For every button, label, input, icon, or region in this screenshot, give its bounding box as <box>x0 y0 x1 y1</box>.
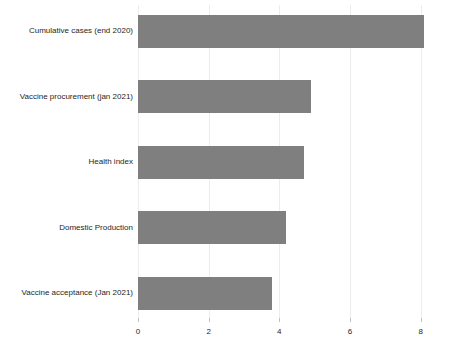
x-tick-label-2: 2 <box>199 327 219 336</box>
gridline-x-8 <box>421 5 422 318</box>
x-tick-mark-2 <box>209 318 210 322</box>
bar-4 <box>138 277 272 310</box>
category-label-2: Health index <box>0 156 133 168</box>
x-tick-label-6: 6 <box>340 327 360 336</box>
bar-chart-figure: Cumulative cases (end 2020)Vaccine procu… <box>0 0 464 357</box>
gridline-x-6 <box>350 5 351 318</box>
bar-0 <box>138 15 424 48</box>
bar-1 <box>138 80 311 113</box>
category-label-4: Vaccine acceptance (Jan 2021) <box>0 287 133 299</box>
category-label-3: Domestic Production <box>0 222 133 234</box>
bar-2 <box>138 146 304 179</box>
x-tick-label-8: 8 <box>411 327 431 336</box>
bar-3 <box>138 211 286 244</box>
x-tick-label-4: 4 <box>269 327 289 336</box>
x-tick-label-0: 0 <box>128 327 148 336</box>
x-tick-mark-6 <box>350 318 351 322</box>
plot-area <box>138 5 456 318</box>
x-tick-mark-8 <box>421 318 422 322</box>
x-tick-mark-0 <box>138 318 139 322</box>
category-label-1: Vaccine procurement (jan 2021) <box>0 91 133 103</box>
x-tick-mark-4 <box>279 318 280 322</box>
category-label-0: Cumulative cases (end 2020) <box>0 25 133 37</box>
